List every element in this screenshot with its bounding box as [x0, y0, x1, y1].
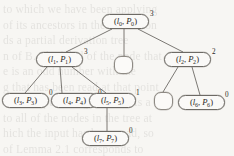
- tree-node-label: (l7, P7): [94, 134, 117, 143]
- tree-node-label: (l1, P1): [48, 55, 71, 64]
- tree-node-n7: (l7, P7): [82, 131, 129, 146]
- tree-node-n2: (l2, P2): [164, 52, 211, 67]
- tree-edge-n2-n6: [192, 67, 200, 95]
- tree-diagram-figure: to which we have been applyingof its anc…: [0, 0, 234, 156]
- tree-node-superscript: 2: [212, 49, 216, 56]
- tree-node-superscript: 0: [225, 92, 229, 99]
- tree-node-n3: (l3, P3): [2, 93, 49, 108]
- tree-node-n1: (l1, P1): [36, 52, 83, 67]
- tree-edge-n1-n4: [60, 67, 62, 93]
- tree-node-superscript: 3: [84, 49, 88, 56]
- tree-node-label: (l2, P2): [176, 55, 199, 64]
- tree-edge-n0-n2: [138, 29, 183, 52]
- tree-node-label: (l0, P0): [114, 17, 137, 26]
- tree-node-n5: (l5, P5): [89, 93, 136, 108]
- tree-node-empty: [154, 92, 173, 110]
- tree-node-n6: (l6, P6): [178, 95, 225, 110]
- tree-node-superscript: 0: [129, 128, 133, 135]
- tree-node-n0: (l0, P0): [102, 14, 149, 29]
- tree-node-label: (l5, P5): [101, 96, 124, 105]
- tree-node-superscript: 1: [136, 90, 140, 97]
- tree-node-empty: [114, 56, 133, 74]
- tree-node-label: (l3, P3): [14, 96, 37, 105]
- tree-edge-n2-nE2: [163, 67, 178, 92]
- tree-edge-n0-n1: [66, 29, 112, 52]
- tree-edge-n1-n3: [25, 67, 47, 93]
- tree-node-label: (l6, P6): [190, 98, 213, 107]
- tree-node-label: (l4, P4): [63, 96, 86, 105]
- tree-node-superscript: 3: [150, 11, 154, 18]
